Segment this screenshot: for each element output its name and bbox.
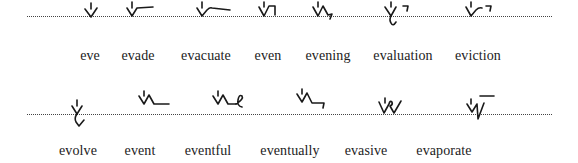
shorthand-row-2: evolve event eventful eventually evasive… bbox=[0, 80, 578, 163]
word-label-evaporate: evaporate bbox=[416, 143, 471, 159]
shorthand-outline-eve-icon bbox=[82, 3, 102, 19]
word-label-eviction: eviction bbox=[455, 48, 501, 64]
word-label-eventful: eventful bbox=[185, 143, 232, 159]
word-label-evade: evade bbox=[121, 48, 154, 64]
shorthand-outline-evade-icon bbox=[125, 2, 161, 18]
shorthand-outline-evaluation-icon bbox=[384, 2, 414, 30]
shorthand-outline-evacuate-icon bbox=[196, 2, 236, 18]
shorthand-outline-even-icon bbox=[258, 2, 282, 18]
word-label-evasive: evasive bbox=[345, 143, 388, 159]
word-label-eve: eve bbox=[80, 48, 100, 64]
shorthand-outline-eventually-icon bbox=[296, 89, 330, 111]
shorthand-outline-event-icon bbox=[138, 91, 174, 109]
shorthand-outline-evolve-icon bbox=[70, 100, 94, 134]
word-label-evening: evening bbox=[305, 48, 350, 64]
shorthand-outline-eventful-icon bbox=[212, 91, 250, 111]
word-label-evolve: evolve bbox=[59, 143, 97, 159]
shorthand-outline-evening-icon bbox=[312, 2, 340, 20]
shorthand-outline-eviction-icon bbox=[465, 2, 495, 18]
shorthand-outline-evaporate-icon bbox=[466, 94, 500, 128]
word-label-evacuate: evacuate bbox=[181, 48, 231, 64]
word-label-evaluation: evaluation bbox=[373, 48, 432, 64]
word-label-even: even bbox=[255, 48, 282, 64]
shorthand-row-1: eve evade evacuate even evening evaluati… bbox=[0, 0, 578, 75]
word-label-eventually: eventually bbox=[260, 143, 319, 159]
shorthand-outline-evasive-icon bbox=[378, 98, 410, 118]
word-label-event: event bbox=[125, 143, 156, 159]
